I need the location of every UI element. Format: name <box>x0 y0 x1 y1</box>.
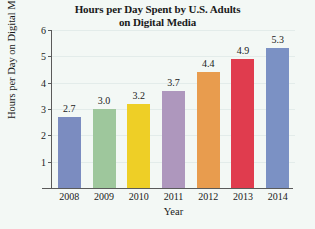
y-axis-tick-label: 1 <box>30 156 46 167</box>
bar[interactable] <box>162 91 185 188</box>
bar[interactable] <box>127 104 150 188</box>
gridline <box>52 30 295 31</box>
bar-value-label: 3.7 <box>154 77 194 88</box>
bar[interactable] <box>58 117 81 188</box>
bar[interactable] <box>93 109 116 188</box>
bar-value-label: 4.4 <box>188 58 228 69</box>
bar[interactable] <box>231 59 254 188</box>
y-axis-tick-label: 4 <box>30 77 46 88</box>
y-axis-tick-label: 6 <box>30 25 46 36</box>
y-axis-tick-label: 3 <box>30 104 46 115</box>
bar-chart-figure: Hours per Day Spent by U.S. Adults on Di… <box>0 0 315 229</box>
plot-area: 2.73.03.23.74.44.95.3 <box>52 30 295 188</box>
bar-value-label: 4.9 <box>223 45 263 56</box>
chart-title: Hours per Day Spent by U.S. Adults on Di… <box>0 3 315 28</box>
bar-value-label: 5.3 <box>258 34 298 45</box>
y-axis-tick-label: 5 <box>30 51 46 62</box>
chart-title-line-2: on Digital Media <box>0 16 315 29</box>
bar-value-label: 3.2 <box>119 90 159 101</box>
x-axis-tick-label: 2014 <box>256 191 300 202</box>
gridline <box>52 56 295 57</box>
chart-title-line-1: Hours per Day Spent by U.S. Adults <box>75 3 241 15</box>
y-axis-label: Hours per Day on Digital Media <box>6 0 20 126</box>
x-axis-spine <box>42 188 293 189</box>
bar[interactable] <box>266 48 289 188</box>
bar[interactable] <box>197 72 220 188</box>
x-axis-label: Year <box>52 206 295 217</box>
y-axis-tick-label: 2 <box>30 130 46 141</box>
